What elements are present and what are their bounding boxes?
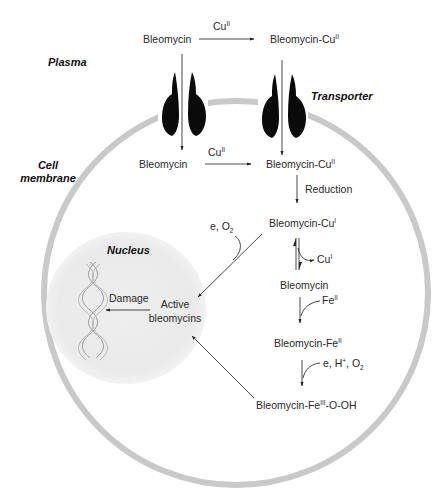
cytosol-bleomycin: Bleomycin (139, 158, 188, 170)
cytosol-cu-reagent: CuII (208, 146, 225, 158)
transporter-right (258, 74, 308, 142)
activation-reagents: e, H+, O2 (323, 357, 364, 371)
active-bleomycins-line1: Active (161, 298, 190, 310)
equilibrium-arrows (293, 238, 302, 270)
active-bleomycins-line2: bleomycins (149, 312, 202, 324)
bleomycin-pathway-diagram: Plasma Transporter Cell membrane Nucleus… (0, 0, 448, 502)
cell-membrane-label-line2: membrane (20, 172, 76, 184)
cell-membrane-label-line1: Cell (38, 159, 59, 171)
plasma-cu-reagent: CuII (213, 20, 230, 32)
cu1-release-label: CuI (317, 253, 332, 265)
plasma-label: Plasma (48, 56, 87, 68)
reduction-label: Reduction (305, 183, 352, 195)
plasma-bleomycin-cu2: Bleomycin-CuII (270, 33, 339, 45)
oxidation-reagents: e, O2 (210, 220, 234, 234)
transporter-left (158, 72, 208, 140)
damage-label: Damage (109, 292, 149, 304)
cytosol-bleomycin-cu2: Bleomycin-CuII (266, 158, 335, 170)
peroxide-to-active-arrow (192, 336, 254, 398)
fe-curved-input (301, 301, 320, 316)
cu1-release-curve (298, 248, 314, 261)
fe-reagent: FeII (322, 294, 338, 306)
activation-curved-input (303, 363, 320, 378)
bleomycin-cu1: Bleomycin-CuI (269, 217, 336, 229)
bleomycin-fe2: Bleomycin-FeII (274, 337, 342, 349)
plasma-bleomycin: Bleomycin (143, 33, 192, 45)
nucleus-label: Nucleus (107, 244, 150, 256)
bleomycin-fe3-hydroperoxide: Bleomycin-FeIII-O-OH (256, 399, 357, 411)
oxidation-arrow (198, 234, 262, 297)
free-bleomycin: Bleomycin (280, 279, 329, 291)
transporter-label: Transporter (311, 90, 373, 102)
